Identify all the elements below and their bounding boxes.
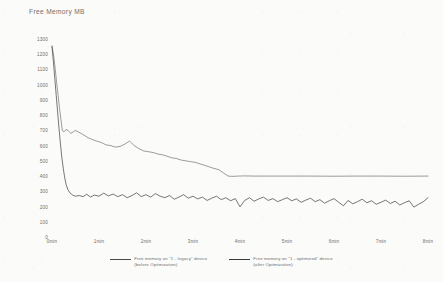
chart-page: Free Memory MB 1300120011001000900800700… (0, 0, 443, 282)
series-line (52, 47, 428, 208)
legend-line-swatch (229, 259, 250, 260)
legend-label-line2: (after Optimization) (253, 262, 333, 268)
chart-legend: Free memory on "1 - legacy" device(befor… (0, 256, 443, 278)
series-line (52, 46, 428, 177)
legend-label-line2: (before Optimization) (134, 262, 207, 268)
plot-area (0, 0, 443, 282)
legend-entry[interactable]: Free memory on "1 - legacy" device(befor… (110, 256, 207, 267)
legend-label: Free memory on "1 - optimized" device(af… (253, 256, 333, 267)
legend-label: Free memory on "1 - legacy" device(befor… (134, 256, 207, 267)
legend-entry[interactable]: Free memory on "1 - optimized" device(af… (229, 256, 333, 267)
legend-line-swatch (110, 259, 131, 260)
